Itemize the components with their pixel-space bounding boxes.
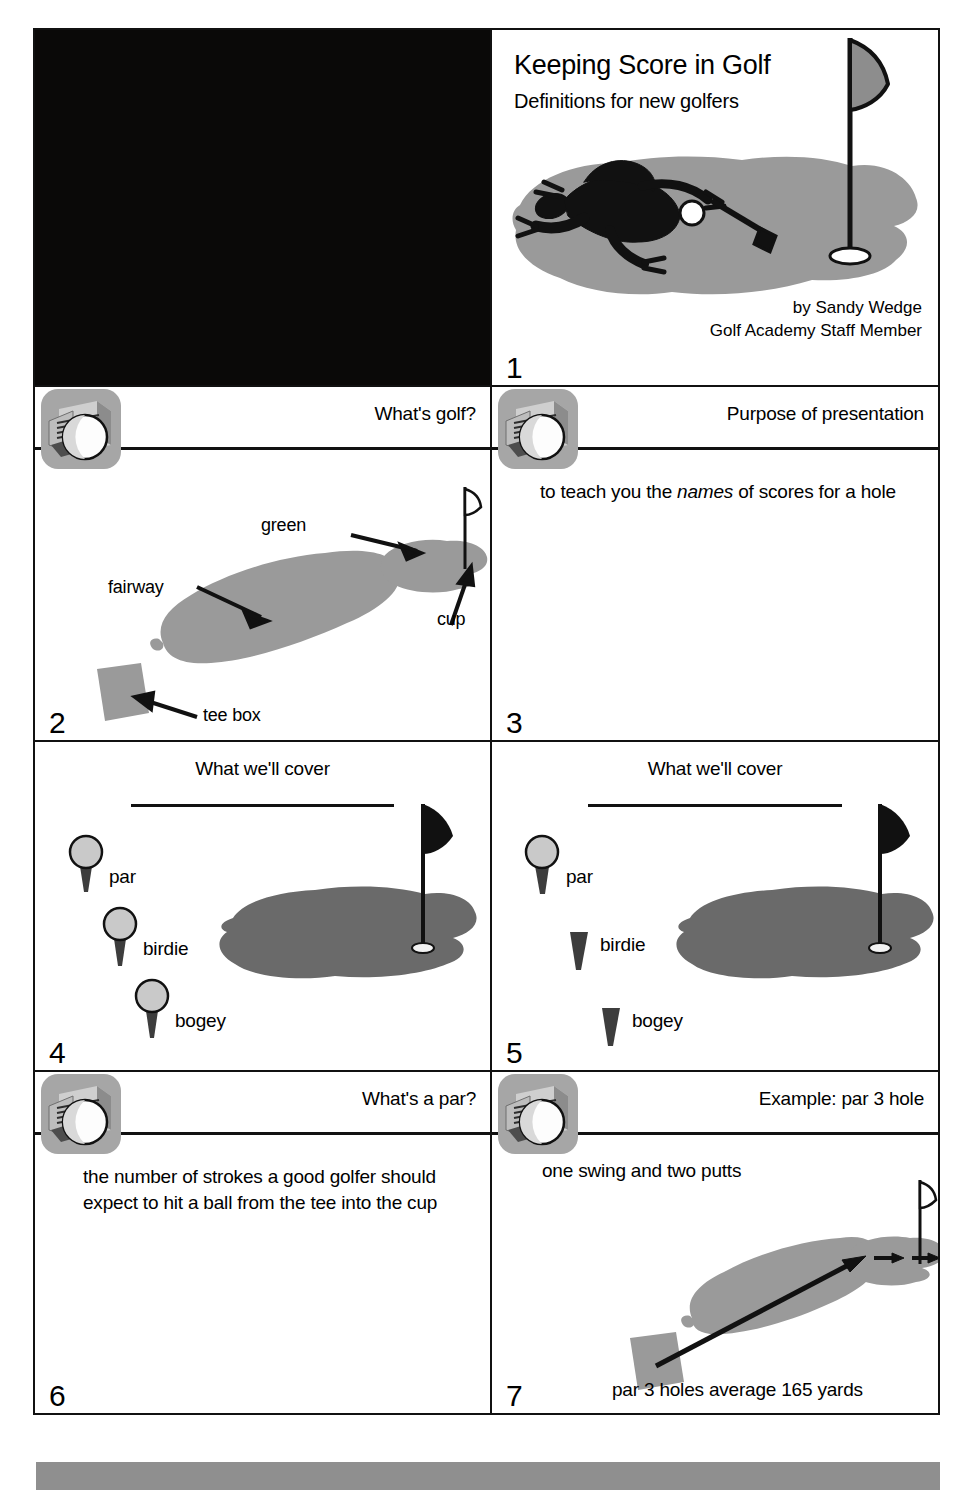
slide-6-body: the number of strokes a good golfer shou…: [83, 1164, 443, 1215]
slide-5-item-birdie: birdie: [600, 934, 645, 956]
slide-7-number: 7: [506, 1381, 522, 1411]
slide-4-title: What we'll cover: [35, 758, 490, 780]
slide-4-header-rule: [131, 804, 394, 807]
slide-1-author: by Sandy Wedge: [710, 297, 922, 320]
slide-1-title: Keeping Score in Golf: [514, 50, 770, 81]
slide-5-title: What we'll cover: [492, 758, 938, 780]
slide-5-header: What we'll cover: [492, 742, 938, 804]
fairway-label: fairway: [108, 577, 164, 598]
slide-2-title: What's golf?: [374, 403, 476, 425]
slide-6-title: What's a par?: [362, 1088, 476, 1110]
slide-7-body: one swing and two putts: [542, 1158, 741, 1184]
slide-4-number: 4: [49, 1038, 65, 1068]
slide-4[interactable]: What we'll cover: [35, 742, 492, 1072]
slide-5-number: 5: [506, 1038, 522, 1068]
cup-label: cup: [437, 609, 465, 630]
slide-1-subtitle: Definitions for new golfers: [514, 90, 739, 113]
slide-grid: Keeping Score in Golf Definitions for ne…: [33, 28, 940, 1415]
slide-3-body: to teach you the names of scores for a h…: [540, 479, 896, 505]
projector-ball-icon: [494, 1072, 586, 1160]
slide-3-body-part1: to teach you the: [540, 481, 677, 502]
black-image-placeholder: [35, 30, 492, 387]
slide-3-number: 3: [506, 708, 522, 738]
projector-ball-icon: [37, 1072, 129, 1160]
slide-5-header-rule: [588, 804, 842, 807]
slide-1-number: 1: [506, 353, 522, 383]
green-label: green: [261, 515, 306, 536]
slide-4-item-bogey: bogey: [175, 1010, 226, 1032]
projector-ball-icon: [494, 387, 586, 475]
gray-footer-bar: [36, 1462, 940, 1490]
slide-3[interactable]: Purpose of presentation: [492, 387, 938, 742]
slide-5-item-par: par: [566, 866, 593, 888]
slide-1-affiliation: Golf Academy Staff Member: [710, 320, 922, 343]
slide-4-item-birdie: birdie: [143, 938, 188, 960]
slide-5[interactable]: What we'll cover: [492, 742, 938, 1072]
slide-4-header: What we'll cover: [35, 742, 490, 804]
slide-3-body-part2: of scores for a hole: [733, 481, 896, 502]
slide-7-title: Example: par 3 hole: [759, 1088, 924, 1110]
tee-box-label: tee box: [203, 705, 261, 726]
slide-1[interactable]: Keeping Score in Golf Definitions for ne…: [492, 30, 938, 387]
slide-7[interactable]: Example: par 3 hole: [492, 1072, 938, 1413]
slide-6-number: 6: [49, 1381, 65, 1411]
handout-page: Keeping Score in Golf Definitions for ne…: [0, 0, 975, 1501]
projector-ball-icon: [37, 387, 129, 475]
slide-3-title: Purpose of presentation: [727, 403, 924, 425]
slide-1-byline: by Sandy Wedge Golf Academy Staff Member: [710, 297, 922, 343]
slide-2[interactable]: What's golf?: [35, 387, 492, 742]
slide-3-body-emphasis: names: [677, 481, 733, 502]
slide-2-number: 2: [49, 708, 65, 738]
slide-5-item-bogey: bogey: [632, 1010, 683, 1032]
slide-7-footnote: par 3 holes average 165 yards: [612, 1379, 863, 1401]
slide-6[interactable]: What's a par?: [35, 1072, 492, 1413]
slide-4-item-par: par: [109, 866, 136, 888]
